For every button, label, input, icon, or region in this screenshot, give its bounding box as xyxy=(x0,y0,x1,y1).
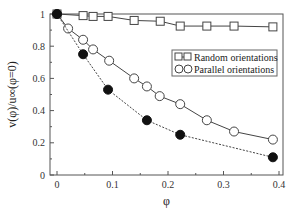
square-marker xyxy=(130,16,138,24)
circle-marker xyxy=(64,24,73,33)
axes: 00.10.20.30.400.20.40.60.81φv(φ)/u∞(φ=0) xyxy=(5,9,285,209)
filled-circle-marker xyxy=(176,130,185,139)
legend-label: Random orientations xyxy=(194,52,278,63)
square-marker xyxy=(89,12,97,20)
series-layer xyxy=(53,10,278,162)
filled-circle-marker xyxy=(104,85,113,94)
square-marker xyxy=(269,23,277,31)
circle-marker xyxy=(176,100,185,109)
circle-marker xyxy=(268,135,277,144)
circle-marker xyxy=(89,45,98,54)
circle-marker xyxy=(105,56,114,65)
y-tick-label: 0.6 xyxy=(33,73,46,84)
legend: Random orientationsParallel orientations xyxy=(172,50,278,76)
circle-marker xyxy=(142,82,151,91)
circle-marker xyxy=(130,74,139,83)
legend-label: Parallel orientations xyxy=(194,64,274,75)
x-tick-label: 0.4 xyxy=(273,179,286,190)
x-tick-label: 0.3 xyxy=(217,179,230,190)
x-tick-label: 0.1 xyxy=(106,179,119,190)
series-line xyxy=(57,14,273,157)
square-marker xyxy=(104,12,112,20)
y-tick-label: 0.2 xyxy=(33,137,46,148)
circle-marker xyxy=(155,92,164,101)
filled-circle-marker xyxy=(142,116,151,125)
y-tick-label: 0.4 xyxy=(33,105,46,116)
square-marker xyxy=(176,22,184,30)
x-tick-label: 0.2 xyxy=(162,179,175,190)
circle-marker xyxy=(79,35,88,44)
legend-square-icon xyxy=(175,53,182,60)
filled-circle-marker xyxy=(53,10,62,19)
chart: 00.10.20.30.400.20.40.60.81φv(φ)/u∞(φ=0)… xyxy=(0,0,295,217)
y-axis-label: v(φ)/u∞(φ=0) xyxy=(5,61,19,128)
square-marker xyxy=(156,17,164,25)
square-marker xyxy=(79,12,87,20)
square-marker xyxy=(230,22,238,30)
circle-marker xyxy=(230,127,239,136)
legend-square-icon xyxy=(184,53,191,60)
y-tick-label: 0 xyxy=(40,170,45,181)
y-tick-label: 0.8 xyxy=(33,41,46,52)
square-marker xyxy=(203,22,211,30)
legend-circle-icon xyxy=(175,65,183,73)
legend-circle-icon xyxy=(184,65,192,73)
filled-circle-marker xyxy=(79,50,88,59)
filled-circle-marker xyxy=(268,153,277,162)
circle-marker xyxy=(202,116,211,125)
y-tick-label: 1 xyxy=(40,9,45,20)
x-axis-label: φ xyxy=(163,194,170,208)
x-tick-label: 0 xyxy=(55,179,60,190)
series-line xyxy=(57,14,273,140)
